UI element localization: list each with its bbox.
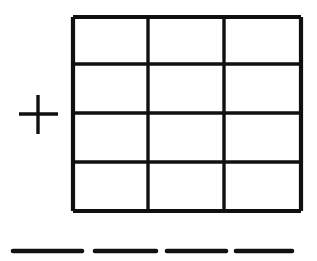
figure-canvas: [0, 0, 317, 261]
grid-horizontal-dividers: [73, 64, 301, 162]
plus-sign: [19, 95, 58, 134]
figure-drawing: [0, 0, 317, 261]
